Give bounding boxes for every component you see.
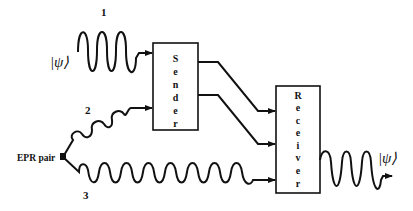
svg-text:c: c bbox=[296, 115, 301, 126]
svg-text:S: S bbox=[173, 53, 179, 64]
svg-text:i: i bbox=[297, 140, 300, 151]
input-state-label: |ψ⟩ bbox=[50, 54, 69, 70]
epr-wave-to-sender bbox=[63, 108, 152, 157]
channel-1-label: 1 bbox=[101, 6, 107, 18]
epr-wave-to-receiver bbox=[63, 157, 275, 184]
svg-text:e: e bbox=[173, 105, 178, 116]
svg-text:e: e bbox=[296, 127, 301, 138]
svg-text:e: e bbox=[173, 66, 178, 77]
epr-pair-label: EPR pair bbox=[17, 153, 56, 163]
classical-channel-upper bbox=[198, 62, 275, 111]
input-wave bbox=[78, 32, 152, 72]
output-state-label: |ψ⟩ bbox=[378, 150, 397, 166]
svg-text:r: r bbox=[173, 118, 178, 129]
svg-text:r: r bbox=[296, 178, 301, 189]
svg-text:n: n bbox=[173, 79, 179, 90]
svg-text:v: v bbox=[296, 152, 301, 163]
teleportation-diagram: 1 |ψ⟩ S e n d e r 2 EPR pair 3 R e c e i… bbox=[0, 0, 413, 211]
channel-3-label: 3 bbox=[83, 189, 89, 201]
channel-2-label: 2 bbox=[85, 104, 91, 116]
svg-text:d: d bbox=[173, 92, 179, 103]
classical-channel-lower bbox=[198, 95, 275, 144]
svg-text:e: e bbox=[296, 102, 301, 113]
svg-text:R: R bbox=[294, 90, 302, 101]
svg-text:e: e bbox=[296, 165, 301, 176]
